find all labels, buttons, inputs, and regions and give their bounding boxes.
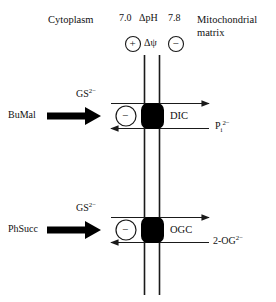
ogc-transporter-block [141, 217, 164, 243]
dic-efflux-species-label: Pi2− [215, 120, 230, 131]
dic-transporter-block [141, 103, 164, 129]
ogc-efflux-species-text: 2-OG [213, 235, 236, 246]
ph-matrix-value: 7.8 [168, 12, 181, 23]
negative-charge-sign: − [173, 37, 179, 49]
ogc-influx-species-charge: 2− [89, 201, 96, 208]
ph-cytoplasm-value: 7.0 [119, 12, 132, 23]
mitochondrial-matrix-label-line1: Mitochondrial [197, 14, 257, 26]
ogc-carrier-name: OGC [170, 224, 192, 236]
cytoplasm-label: Cytoplasm [48, 14, 94, 26]
delta-psi-label: Δψ [144, 37, 157, 48]
ogc-influx-species-text: GS [76, 202, 89, 213]
dic-efflux-species-sub: i [221, 126, 223, 133]
positive-charge-sign: + [130, 37, 136, 49]
ogc-efflux-species-label: 2-OG2− [213, 235, 243, 246]
mitochondrial-matrix-label-line2: matrix [197, 27, 224, 39]
dic-influx-species-text: GS [76, 88, 89, 99]
dic-inhibition-sign: − [122, 109, 128, 121]
dic-carrier-name: DIC [170, 110, 188, 122]
phsucc-inhibitor-arrow [47, 221, 101, 239]
ogc-influx-species-label: GS2− [76, 202, 96, 213]
diagram-vector-layer [0, 0, 276, 302]
phsucc-label: PhSucc [8, 223, 38, 234]
dic-efflux-species-charge: 2− [222, 119, 229, 126]
inner-membrane [145, 55, 160, 295]
dic-influx-species-charge: 2− [89, 87, 96, 94]
figure-canvas: Cytoplasm Mitochondrial matrix 7.0 ΔpH 7… [0, 0, 276, 302]
dic-influx-species-label: GS2− [76, 88, 96, 99]
ogc-inhibition-sign: − [122, 223, 128, 235]
bumal-inhibitor-arrow [47, 107, 101, 125]
ogc-efflux-species-charge: 2− [236, 234, 243, 241]
bumal-label: BuMal [8, 109, 36, 120]
delta-ph-label: ΔpH [139, 12, 158, 23]
